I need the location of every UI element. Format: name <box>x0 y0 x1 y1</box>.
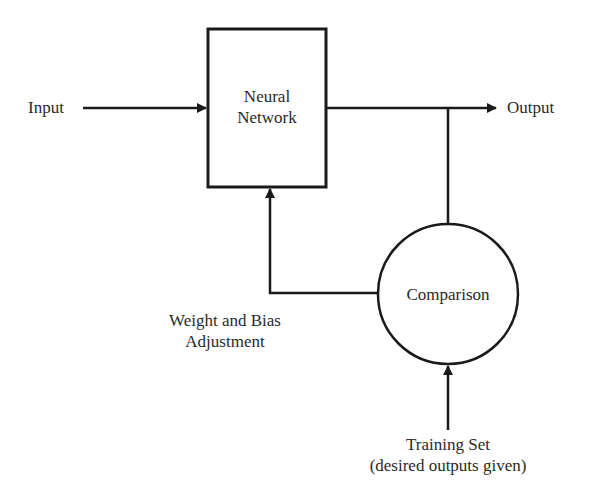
neural-network-label: Neural Network <box>208 86 326 128</box>
output-label: Output <box>507 97 554 118</box>
input-label: Input <box>28 97 64 118</box>
neural-network-line1: Neural <box>208 86 326 107</box>
neural-network-line2: Network <box>208 107 326 128</box>
training-set-line2: (desired outputs given) <box>343 455 553 476</box>
weight-adjustment-line1: Weight and Bias <box>140 310 310 331</box>
weight-adjustment-line2: Adjustment <box>140 331 310 352</box>
training-set-label: Training Set (desired outputs given) <box>343 434 553 476</box>
comparison-label: Comparison <box>378 284 518 305</box>
diagram-canvas <box>0 0 593 498</box>
weight-adjustment-label: Weight and Bias Adjustment <box>140 310 310 352</box>
feedback-arrow <box>270 189 378 293</box>
training-set-line1: Training Set <box>343 434 553 455</box>
